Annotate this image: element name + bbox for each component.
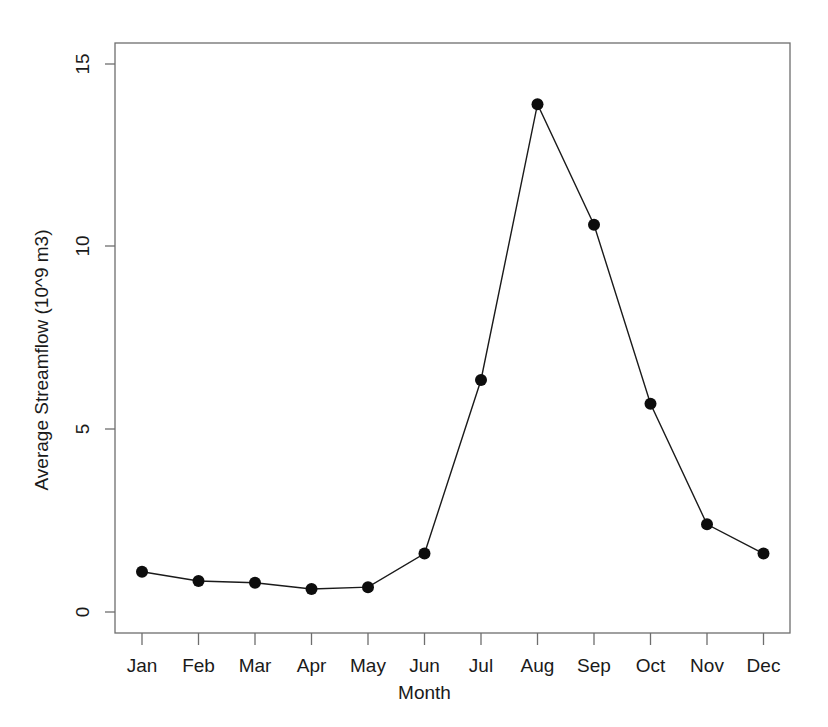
streamflow-markers [136, 98, 770, 595]
data-point-feb [193, 575, 205, 587]
plot-frame [115, 43, 790, 633]
y-axis-tick-labels: 15 10 5 0 [72, 53, 93, 617]
x-tick-label-may: May [350, 655, 386, 676]
data-point-may [362, 581, 374, 593]
x-tick-label-apr: Apr [297, 655, 327, 676]
x-axis-title: Month [398, 682, 451, 703]
data-point-jun [419, 548, 431, 560]
x-axis-ticks [142, 633, 764, 645]
streamflow-line-chart: 15 10 5 0 Average Streamflow (10^9 m3) J… [0, 0, 828, 727]
x-tick-label-jun: Jun [409, 655, 440, 676]
data-point-mar [249, 577, 261, 589]
y-axis-ticks [105, 64, 115, 612]
x-tick-label-oct: Oct [636, 655, 666, 676]
x-tick-label-mar: Mar [239, 655, 272, 676]
data-point-dec [758, 548, 770, 560]
y-tick-label-5: 5 [72, 424, 93, 435]
x-tick-label-sep: Sep [577, 655, 611, 676]
y-tick-label-10: 10 [72, 235, 93, 256]
y-axis-title: Average Streamflow (10^9 m3) [31, 230, 52, 491]
data-point-jul [475, 374, 487, 386]
data-point-aug [532, 98, 544, 110]
data-point-oct [645, 398, 657, 410]
data-point-sep [588, 219, 600, 231]
data-point-apr [306, 583, 318, 595]
y-tick-label-15: 15 [72, 53, 93, 74]
x-tick-label-jan: Jan [127, 655, 158, 676]
chart-canvas: 15 10 5 0 Average Streamflow (10^9 m3) J… [0, 0, 828, 727]
x-axis-tick-labels: Jan Feb Mar Apr May Jun Jul Aug Sep Oct … [127, 655, 781, 676]
data-point-jan [136, 566, 148, 578]
x-tick-label-feb: Feb [182, 655, 215, 676]
x-tick-label-aug: Aug [521, 655, 555, 676]
streamflow-line [142, 104, 764, 589]
data-point-nov [701, 518, 713, 530]
x-tick-label-dec: Dec [747, 655, 781, 676]
x-tick-label-nov: Nov [690, 655, 724, 676]
y-tick-label-0: 0 [72, 607, 93, 618]
x-tick-label-jul: Jul [469, 655, 493, 676]
